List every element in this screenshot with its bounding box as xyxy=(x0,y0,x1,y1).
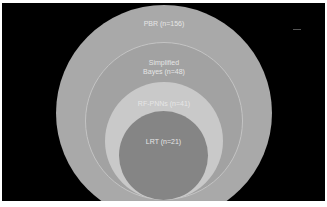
label-pbr: PBR (n=156) xyxy=(56,19,272,28)
label-rf-pnns: RF-PNNs (n=41) xyxy=(105,99,223,108)
circle-lrt: LRT (n=21) xyxy=(119,111,208,200)
label-lrt: LRT (n=21) xyxy=(119,137,208,146)
diagram-panel: PBR (n=156) Simplified Bayes (n=48) RF-P… xyxy=(2,3,325,201)
label-simplified-bayes: Simplified Bayes (n=48) xyxy=(86,58,242,76)
decorative-mark xyxy=(293,29,301,30)
